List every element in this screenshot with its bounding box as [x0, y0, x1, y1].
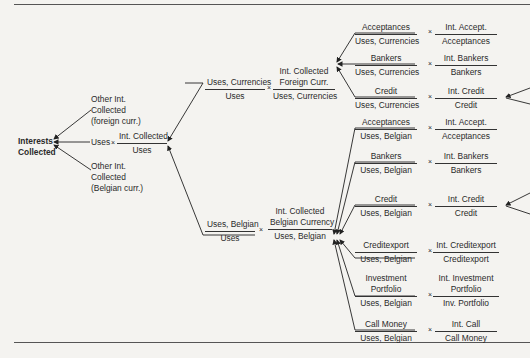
currencies-rate-den: Uses, Currencies	[273, 90, 335, 102]
multiply-sign: ×	[111, 139, 115, 147]
belgian-rate-num: Int. Collected Belgian Currency	[268, 206, 332, 230]
currencies-rate: Int. Collected Foreign Curr. Uses, Curre…	[273, 66, 335, 102]
multiply-sign: ×	[267, 84, 271, 92]
share: InvestmentPortfolio Uses, Belgian	[355, 273, 417, 309]
ratio-numerator: Int. Collected	[117, 131, 167, 144]
belgian-share-den: Uses	[205, 232, 255, 244]
rate: Int. CreditCredit	[435, 194, 497, 219]
currencies-rate-num: Int. Collected Foreign Curr.	[273, 66, 335, 90]
other-int-belgian: Other Int. Collected (Belgian curr.)	[91, 161, 143, 194]
multiply-sign: ×	[428, 60, 432, 68]
share: AcceptancesUses, Currencies	[355, 22, 417, 47]
rate: Int. Accept.Acceptances	[435, 22, 497, 47]
int-collected-over-uses: Int. Collected Uses	[117, 131, 167, 156]
multiply-sign: ×	[428, 93, 432, 101]
rate: Int. BankersBankers	[435, 151, 497, 176]
rate: Int. BankersBankers	[435, 53, 497, 78]
root-label: Interests Collected	[18, 136, 58, 158]
belgian-share-num: Uses, Belgian	[205, 219, 255, 232]
multiply-sign: ×	[428, 201, 432, 209]
rate: Int. Accept.Acceptances	[435, 117, 497, 142]
belgian-share: Uses, Belgian Uses	[205, 219, 255, 244]
multiply-sign: ×	[428, 28, 432, 36]
other-foreign-line3: (foreign curr.)	[91, 116, 141, 127]
other-belgian-line1: Other Int.	[91, 161, 143, 172]
belgian-rate-den: Uses, Belgian	[268, 230, 332, 242]
belgian-rate: Int. Collected Belgian Currency Uses, Be…	[268, 206, 332, 242]
currencies-share: Uses, Currencies Uses	[205, 77, 265, 102]
multiply-sign: ×	[428, 158, 432, 166]
rate: Int. CallCall Money	[435, 319, 497, 344]
share: Call MoneyUses, Belgian	[355, 319, 417, 344]
rate: Int. CreditexportCreditexport	[433, 240, 499, 265]
share: CreditexportUses, Belgian	[355, 240, 417, 265]
multiply-sign: ×	[428, 124, 432, 132]
other-belgian-line2: Collected	[91, 172, 143, 183]
share: AcceptancesUses, Belgian	[355, 117, 417, 142]
share: CreditUses, Belgian	[355, 194, 417, 219]
uses-term: Uses	[91, 137, 110, 148]
other-belgian-line3: (Belgian curr.)	[91, 183, 143, 194]
multiply-sign: ×	[259, 226, 263, 234]
other-int-foreign: Other Int. Collected (foreign curr.)	[91, 94, 141, 127]
currencies-share-den: Uses	[205, 90, 265, 102]
other-foreign-line2: Collected	[91, 105, 141, 116]
currencies-share-num: Uses, Currencies	[205, 77, 265, 90]
rate: Int. CreditCredit	[435, 86, 497, 111]
share: BankersUses, Currencies	[355, 53, 417, 78]
rate: Int. InvestmentPortfolio Inv. Portfolio	[433, 273, 499, 309]
share: BankersUses, Belgian	[355, 151, 417, 176]
multiply-sign: ×	[428, 326, 432, 334]
multiply-sign: ×	[428, 247, 432, 255]
ratio-denominator: Uses	[117, 144, 167, 156]
multiply-sign: ×	[428, 291, 432, 299]
share: CreditUses, Currencies	[355, 86, 417, 111]
other-foreign-line1: Other Int.	[91, 94, 141, 105]
